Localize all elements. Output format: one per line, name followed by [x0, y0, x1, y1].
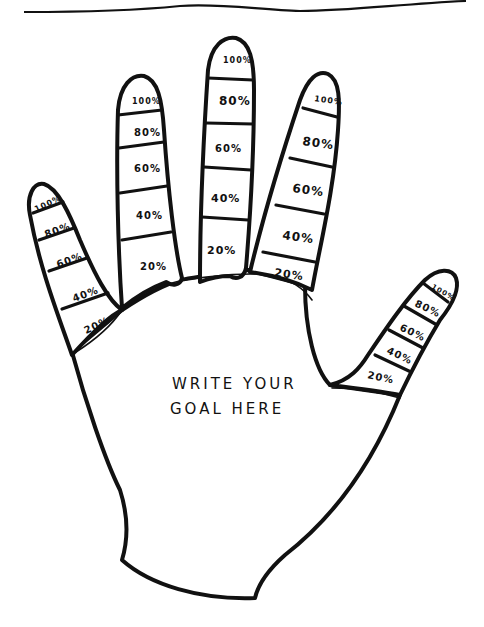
- palm-outline: [72, 270, 400, 598]
- ring-label-40: 40%: [136, 210, 163, 221]
- top-rule-line: [24, 1, 466, 12]
- middle-label-100: 100%: [223, 56, 252, 65]
- middle-label-80: 80%: [219, 94, 251, 108]
- ring-label-100: 100%: [132, 97, 161, 106]
- finger-index: 100% 80% 60% 40% 20%: [250, 73, 343, 290]
- goal-hand-diagram: 100% 80% 60% 40% 20% 100% 80% 60% 40% 20…: [0, 0, 484, 627]
- ring-label-20: 20%: [140, 261, 167, 272]
- finger-ring: 100% 80% 60% 40% 20%: [117, 76, 182, 308]
- middle-divider-80: [206, 123, 253, 124]
- middle-label-20: 20%: [207, 244, 236, 257]
- goal-prompt-line2: GOAL HERE: [170, 400, 284, 418]
- ring-label-60: 60%: [134, 163, 161, 174]
- ring-label-80: 80%: [134, 127, 161, 138]
- middle-label-40: 40%: [211, 192, 240, 205]
- middle-divider-100: [208, 78, 253, 80]
- middle-label-60: 60%: [215, 143, 242, 154]
- finger-thumb: 100% 80% 60% 40% 20%: [330, 271, 457, 398]
- finger-middle: 100% 80% 60% 40% 20%: [200, 38, 254, 282]
- goal-prompt-line1: WRITE YOUR: [172, 375, 297, 393]
